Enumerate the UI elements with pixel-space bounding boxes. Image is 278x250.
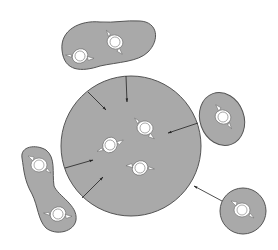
group-bottom-right xyxy=(194,186,266,234)
group-central xyxy=(61,76,201,216)
diagram-canvas xyxy=(0,0,278,250)
arrow-icon xyxy=(194,186,222,201)
group-top-left xyxy=(62,21,156,70)
